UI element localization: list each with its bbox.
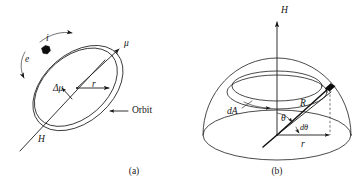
label-electron: e (25, 54, 29, 64)
dtheta-angle-arc (296, 127, 299, 133)
orbit-ellipse-inner (19, 32, 132, 142)
label-field-axis: H (280, 5, 289, 15)
physics-figure-root: i e μ Δμ r Orbit H (a) (0, 0, 361, 188)
band-direction-arrow (244, 102, 270, 108)
label-current: i (46, 33, 49, 43)
label-magnetic-moment: μ (123, 38, 129, 48)
label-delta-moment: Δμ (52, 83, 64, 93)
label-orbit-radius: r (92, 79, 96, 89)
label-dtheta: dθ (300, 123, 308, 132)
electron-marker (42, 45, 51, 54)
label-orbit: Orbit (132, 105, 152, 115)
label-projected-radius: r (301, 139, 305, 149)
caption-panel-a: (a) (129, 166, 140, 177)
caption-panel-b: (b) (271, 166, 282, 177)
current-direction-arrow (40, 32, 72, 42)
label-sphere-radius: R (299, 98, 306, 108)
label-applied-field: H (37, 134, 46, 144)
magnetic-moment-arrow (77, 49, 119, 88)
panel-b-group: H dA R θ dθ r (b) (203, 5, 351, 177)
label-area-element: dA (227, 106, 238, 116)
label-theta: θ (281, 113, 286, 123)
radius-tail-segment (263, 135, 277, 147)
panel-a-group: i e μ Δμ r Orbit H (a) (16, 28, 152, 177)
physics-figure-canvas: i e μ Δμ r Orbit H (a) (0, 0, 361, 188)
